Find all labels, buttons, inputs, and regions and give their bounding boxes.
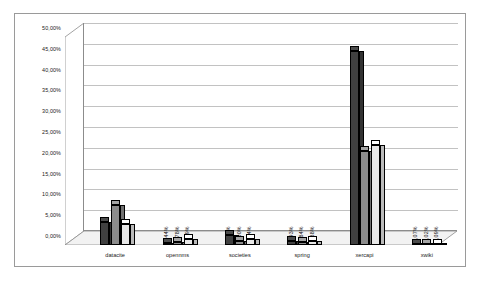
bar-front-face <box>111 205 120 245</box>
bar-front-face <box>298 242 307 245</box>
bar-top-face <box>422 239 431 244</box>
chart-frame: 0,00%5,00%10,00%15,00%20,00%25,00%30,00%… <box>14 13 466 267</box>
x-axis-tick-label: societies <box>209 252 271 258</box>
bar-top-face <box>412 239 421 244</box>
y-axis-tick-label: 30,00% <box>17 108 61 114</box>
y-axis-tick-label: 35,00% <box>17 87 61 93</box>
bar-side-face <box>255 239 260 245</box>
bar-top-face <box>121 219 130 224</box>
x-axis-tick-label: datacite <box>84 252 146 258</box>
bar-front-face <box>350 51 359 245</box>
bar-top-face <box>308 236 317 241</box>
y-axis-tick-label: 20,00% <box>17 150 61 156</box>
bar-side-face <box>317 241 322 245</box>
bar-front-face <box>308 241 317 245</box>
bar-front-face <box>121 224 130 245</box>
bar[interactable] <box>100 222 109 245</box>
gridline <box>84 210 458 211</box>
bar-front-face <box>371 145 380 245</box>
x-axis: dataciteopennmssocietiesspringxercapixwi… <box>65 252 457 266</box>
x-axis-tick-label: spring <box>271 252 333 258</box>
bar-group: 0,07%0,02%0,09% <box>412 37 442 245</box>
bar[interactable] <box>371 145 380 245</box>
bar-group: 0,93%0,84%0,88% <box>287 37 317 245</box>
bar[interactable] <box>184 239 193 245</box>
bar[interactable] <box>235 241 244 245</box>
bar-front-face <box>235 241 244 245</box>
bar-front-face <box>225 235 234 245</box>
bar[interactable] <box>422 244 431 245</box>
gridline <box>84 169 458 170</box>
bar-group: 0,44%0,78%1,39% <box>163 37 193 245</box>
plot-area: 5,50%9,50%5,00%0,44%0,78%1,39%2,37%1,00%… <box>65 23 457 245</box>
bar[interactable] <box>173 242 182 245</box>
bar-front-face <box>163 243 172 245</box>
bar-group: 46,72%22,63%24,09% <box>350 37 380 245</box>
gridline <box>84 189 458 190</box>
y-axis-tick-label: 0,00% <box>17 233 61 239</box>
y-axis-tick-label: 40,00% <box>17 67 61 73</box>
bar[interactable] <box>308 241 317 245</box>
bar-side-face <box>130 224 135 245</box>
bar-group: 5,50%9,50%5,00% <box>100 37 130 245</box>
bar-top-face <box>235 236 244 241</box>
bar[interactable] <box>287 241 296 245</box>
bar-top-face <box>225 230 234 235</box>
gridline <box>84 65 458 66</box>
gridline <box>84 44 458 45</box>
bar-front-face <box>173 242 182 245</box>
y-axis-tick-label: 50,00% <box>17 25 61 31</box>
bar-top-face <box>246 234 255 239</box>
y-axis-tick-label: 45,00% <box>17 46 61 52</box>
bar[interactable] <box>111 205 120 245</box>
y-axis-tick-label: 10,00% <box>17 191 61 197</box>
bar-front-face <box>287 241 296 245</box>
gridline <box>84 148 458 149</box>
bar[interactable] <box>298 242 307 245</box>
bar-top-face <box>433 239 442 244</box>
bar-side-face <box>442 243 447 245</box>
bar-top-face <box>100 217 109 222</box>
y-axis-tick-label: 15,00% <box>17 171 61 177</box>
bar-top-face <box>360 146 369 151</box>
chart-back-wall <box>83 23 457 231</box>
bar-front-face <box>184 239 193 245</box>
bar-top-face <box>163 238 172 243</box>
bar-side-face <box>380 145 385 245</box>
bar[interactable] <box>360 151 369 245</box>
bar[interactable] <box>121 224 130 245</box>
bar-group: 2,37%1,00%1,44% <box>225 37 255 245</box>
bar[interactable] <box>163 243 172 245</box>
bar[interactable] <box>225 235 234 245</box>
bar-top-face <box>184 234 193 239</box>
bar-front-face <box>246 239 255 245</box>
gridline <box>84 23 458 24</box>
bar-top-face <box>173 237 182 242</box>
gridline <box>84 127 458 128</box>
bar[interactable] <box>246 239 255 245</box>
bar-front-face <box>100 222 109 245</box>
bar-top-face <box>350 46 359 51</box>
bar-front-face <box>360 151 369 245</box>
bar-top-face <box>298 237 307 242</box>
bar-top-face <box>371 140 380 145</box>
y-axis-tick-label: 25,00% <box>17 129 61 135</box>
bar[interactable] <box>350 51 359 245</box>
y-axis: 0,00%5,00%10,00%15,00%20,00%25,00%30,00%… <box>15 14 61 246</box>
bar-top-face <box>287 236 296 241</box>
gridline <box>84 106 458 107</box>
x-axis-tick-label: xercapi <box>333 252 395 258</box>
x-axis-tick-label: opennms <box>146 252 208 258</box>
bar-side-face <box>193 239 198 245</box>
bar[interactable] <box>433 244 442 245</box>
chart-side-wall <box>65 23 84 245</box>
y-axis-tick-label: 5,00% <box>17 212 61 218</box>
x-axis-tick-label: xwiki <box>396 252 458 258</box>
bar[interactable] <box>412 244 421 245</box>
gridline <box>84 85 458 86</box>
bar-top-face <box>111 200 120 205</box>
